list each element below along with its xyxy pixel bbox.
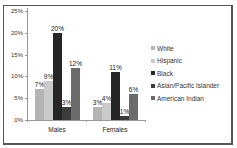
legend-label: Asian/Pacific Islander bbox=[157, 82, 219, 89]
legend-swatch-icon bbox=[151, 96, 155, 100]
bar-males-0 bbox=[35, 89, 44, 120]
bar-females-1 bbox=[102, 103, 111, 120]
x-category-label: Females bbox=[95, 126, 135, 133]
y-tick-label: 0% bbox=[5, 117, 23, 123]
legend-label: American Indian bbox=[157, 95, 204, 102]
legend-swatch-icon bbox=[151, 59, 155, 63]
legend-item: Black bbox=[151, 67, 219, 80]
y-tick-label: 5% bbox=[5, 95, 23, 101]
x-tick-mark bbox=[27, 120, 28, 122]
data-label: 12% bbox=[69, 60, 83, 67]
bar-females-3 bbox=[120, 116, 129, 120]
legend-label: Hispanic bbox=[157, 57, 182, 64]
y-tick-label: 20% bbox=[5, 30, 23, 36]
legend: WhiteHispanicBlackAsian/Pacific Islander… bbox=[151, 42, 219, 105]
x-category-label: Males bbox=[37, 126, 77, 133]
legend-item: Asian/Pacific Islander bbox=[151, 80, 219, 93]
bar-females-4 bbox=[129, 94, 138, 120]
legend-swatch-icon bbox=[151, 46, 155, 50]
legend-item: Hispanic bbox=[151, 55, 219, 68]
y-axis bbox=[27, 8, 28, 121]
y-tick-label: 15% bbox=[5, 52, 23, 58]
legend-item: American Indian bbox=[151, 92, 219, 105]
x-tick-mark bbox=[145, 120, 146, 122]
y-tick-label: 25% bbox=[5, 8, 23, 14]
bar-males-1 bbox=[44, 81, 53, 120]
x-tick-mark bbox=[86, 120, 87, 122]
legend-item: White bbox=[151, 42, 219, 55]
y-tick-label: 10% bbox=[5, 73, 23, 79]
bar-females-0 bbox=[93, 107, 102, 120]
legend-swatch-icon bbox=[151, 84, 155, 88]
legend-swatch-icon bbox=[151, 71, 155, 75]
data-label: 20% bbox=[51, 25, 65, 32]
bar-males-4 bbox=[71, 68, 80, 120]
bar-males-3 bbox=[62, 107, 71, 120]
legend-label: Black bbox=[157, 70, 173, 77]
legend-label: White bbox=[157, 45, 174, 52]
bar-males-2 bbox=[53, 33, 62, 120]
data-label: 11% bbox=[109, 64, 123, 71]
data-label: 6% bbox=[127, 86, 141, 93]
